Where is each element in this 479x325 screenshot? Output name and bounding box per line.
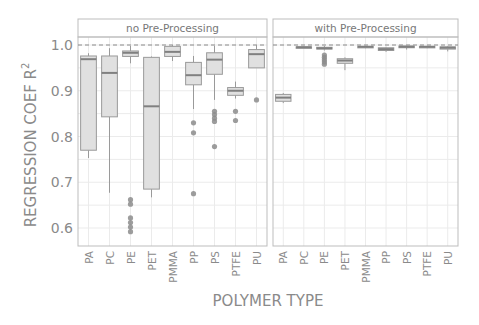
outlier-point — [233, 109, 238, 114]
grid-lines — [78, 37, 458, 246]
x-axis-label: POLYMER TYPE — [213, 292, 324, 310]
box-ps — [399, 45, 414, 49]
x-tick-label: PP — [188, 251, 200, 264]
outlier-point — [128, 202, 133, 207]
x-tick-label: PET — [339, 250, 351, 270]
x-tick-label: PA — [277, 250, 289, 264]
y-axis-label: REGRESSION COEF R2 — [20, 63, 40, 228]
outlier-point — [212, 144, 217, 149]
outlier-point — [128, 229, 133, 234]
facet-strip-label: no Pre-Processing — [126, 22, 219, 34]
x-tick-label: PTFE — [421, 251, 433, 276]
x-tick-label: PE — [125, 251, 137, 264]
facet-panels: no Pre-ProcessingPAPCPEPETPMMAPPPSPTFEPU… — [78, 19, 458, 283]
box-pe — [317, 46, 332, 67]
outlier-point — [191, 130, 196, 135]
box-ptfe — [419, 46, 434, 48]
box-pp — [378, 47, 393, 52]
outlier-point — [212, 119, 217, 124]
box-pet — [144, 56, 160, 197]
box-pc — [102, 48, 118, 193]
box-pu — [440, 46, 455, 51]
x-tick-label: PS — [209, 251, 221, 264]
x-tick-label: PS — [401, 251, 413, 264]
box-pa — [81, 53, 97, 158]
y-tick-label: 1.0 — [51, 37, 73, 53]
outlier-point — [233, 118, 238, 123]
y-tick-label: 0.6 — [51, 220, 73, 236]
outlier-point — [191, 120, 196, 125]
box-pmma — [358, 46, 373, 48]
x-tick-label: PE — [318, 251, 330, 264]
box-pmma — [165, 45, 181, 61]
regression-boxplot-chart: no Pre-ProcessingPAPCPEPETPMMAPPPSPTFEPU… — [0, 0, 479, 325]
facet-strip-label: with Pre-Processing — [314, 22, 416, 34]
outlier-point — [322, 62, 327, 67]
y-tick-label: 0.7 — [51, 174, 73, 190]
outlier-point — [128, 215, 133, 220]
x-tick-label: PET — [146, 250, 158, 270]
box-pc — [296, 46, 311, 48]
x-tick-label: PMMA — [167, 250, 179, 282]
x-tick-label: PU — [251, 251, 263, 265]
panel-grid — [273, 37, 458, 246]
x-tick-label: PA — [83, 250, 95, 264]
outlier-point — [128, 197, 133, 202]
x-tick-label: PP — [380, 251, 392, 264]
y-tick-label: 0.8 — [51, 129, 73, 145]
x-tick-label: PTFE — [230, 251, 242, 276]
outlier-point — [128, 224, 133, 229]
outlier-point — [128, 220, 133, 225]
x-tick-label: PU — [442, 251, 454, 265]
x-tick-label: PMMA — [360, 250, 372, 282]
x-tick-label: PC — [104, 251, 116, 265]
x-tick-label: PC — [298, 251, 310, 265]
box-pa — [276, 93, 291, 103]
outlier-point — [191, 191, 196, 196]
outlier-point — [254, 97, 259, 102]
y-axis: 0.60.70.80.91.0 — [51, 37, 73, 236]
y-tick-label: 0.9 — [51, 83, 73, 99]
